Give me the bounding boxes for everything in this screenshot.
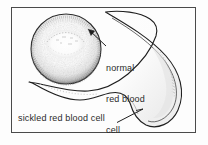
normal-red-blood-cell-drawing <box>31 14 101 84</box>
diagram-canvas <box>0 0 208 145</box>
sickled-red-blood-cell-label: sickled red blood cell <box>18 113 105 123</box>
normal-label-line-1: normal <box>106 63 145 73</box>
normal-red-blood-cell-label: normal red blood cell <box>106 43 145 145</box>
figure-container: normal red blood cell sickled red blood … <box>0 0 208 145</box>
normal-label-line-2: red blood <box>106 94 145 104</box>
rbc-central-pallor <box>46 30 84 58</box>
normal-label-line-3: cell <box>106 125 145 135</box>
